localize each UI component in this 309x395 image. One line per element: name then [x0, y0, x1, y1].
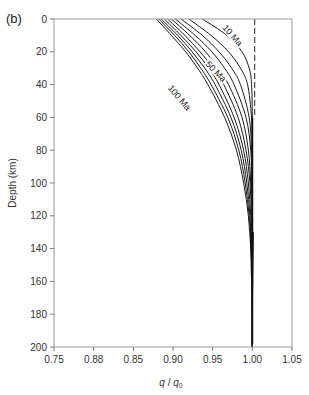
curve-label: 100 Ma	[166, 83, 193, 112]
x-tick-label: 0.85	[124, 354, 144, 365]
y-tick-label: 180	[30, 309, 47, 320]
y-tick-label: 20	[36, 46, 48, 57]
x-axis-title-subscript: 0	[179, 382, 183, 389]
y-tick-label: 0	[41, 14, 47, 25]
y-tick-label: 100	[30, 178, 47, 189]
y-tick-label: 40	[36, 79, 48, 90]
curves-group	[156, 19, 254, 347]
y-tick-label: 160	[30, 276, 47, 287]
x-axis-title-sep: /	[165, 377, 173, 388]
y-axis: 020406080100120140160180200	[30, 14, 54, 353]
curve-label: 10 Ma	[220, 23, 244, 48]
curve-annotations: 10 Ma50 Ma100 Ma	[166, 21, 246, 112]
y-tick-label: 140	[30, 243, 47, 254]
x-tick-label: 0.90	[163, 354, 183, 365]
y-tick-label: 200	[30, 342, 47, 353]
x-axis-title: q / q0	[159, 377, 182, 389]
y-tick-label: 60	[36, 112, 48, 123]
heat-flow-depth-chart: (b) 020406080100120140160180200 0.750.88…	[0, 0, 309, 395]
panel-label: (b)	[6, 11, 22, 26]
plot-frame	[54, 19, 292, 347]
x-tick-label: 0.88	[84, 354, 104, 365]
x-tick-label: 0.95	[203, 354, 223, 365]
x-axis: 0.750.880.850.900.951.001.05	[44, 347, 302, 365]
x-tick-label: 1.00	[243, 354, 263, 365]
y-axis-title: Depth (km)	[7, 158, 18, 207]
x-tick-label: 0.75	[44, 354, 64, 365]
y-tick-label: 120	[30, 210, 47, 221]
y-tick-label: 80	[36, 145, 48, 156]
x-tick-label: 1.05	[282, 354, 302, 365]
